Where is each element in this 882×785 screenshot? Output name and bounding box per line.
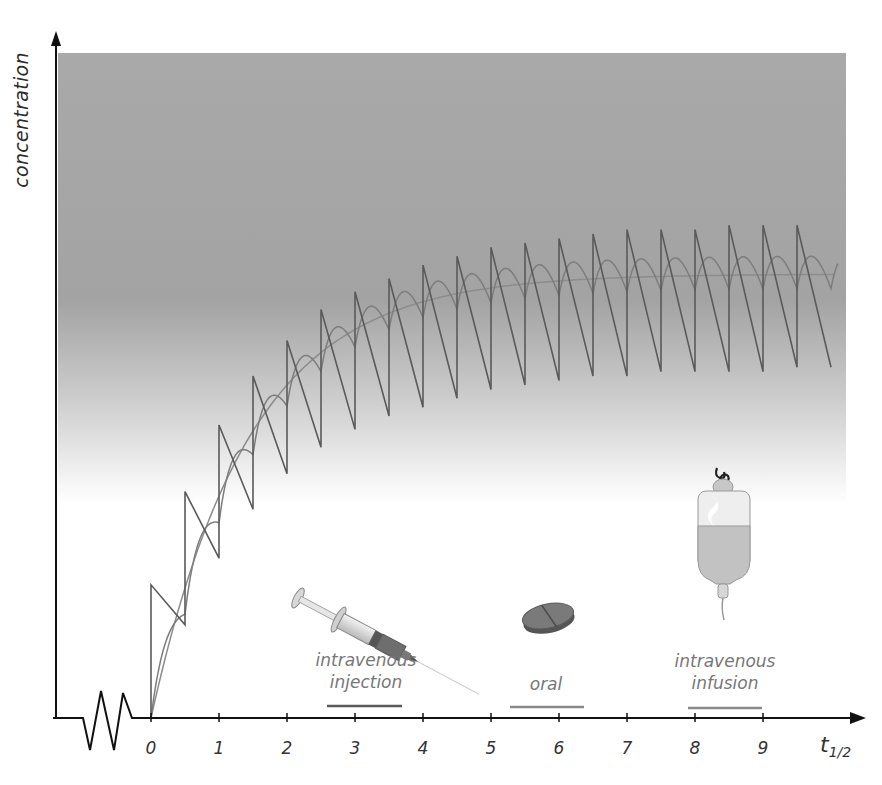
x-tick-label: 0 <box>146 738 157 758</box>
legend-label-oral: oral <box>530 673 563 695</box>
x-tick-label: 6 <box>554 738 565 758</box>
iv-bag-icon <box>698 468 750 620</box>
x-axis-unit-label: t1/2 <box>820 732 851 760</box>
x-tick-label: 9 <box>758 738 769 758</box>
legend-label-iv-infusion: intravenous infusion <box>675 650 776 694</box>
legend-label-iv-injection: intravenous injection <box>316 649 417 693</box>
x-tick-label: 7 <box>622 738 633 758</box>
x-tick-label: 1 <box>214 738 225 758</box>
x-axis <box>53 691 866 750</box>
x-tick-label: 2 <box>282 738 293 758</box>
x-tick-label: 5 <box>486 738 497 758</box>
y-axis-label: concentration <box>6 40 36 200</box>
background-band <box>58 53 846 503</box>
axis-break-zigzag <box>53 691 852 750</box>
pill-icon <box>520 599 577 638</box>
x-tick-label: 3 <box>350 738 361 758</box>
x-axis-arrow-icon <box>850 712 866 724</box>
x-tick-label: 4 <box>418 738 429 758</box>
y-axis-arrow-icon <box>51 31 61 46</box>
x-tick-label: 8 <box>690 738 701 758</box>
